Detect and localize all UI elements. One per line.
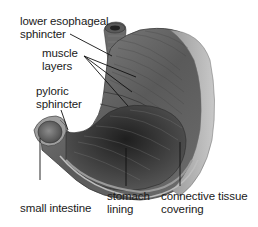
label-stomach-lining: stomach lining	[107, 190, 150, 215]
label-small-intestine: small intestine	[20, 202, 91, 215]
label-muscle-layers: muscle layers	[42, 47, 78, 72]
label-connective-tissue-covering: connective tissue covering	[161, 190, 248, 215]
label-pyloric-sphincter: pyloric sphincter	[36, 85, 82, 110]
label-lower-esophageal-sphincter: lower esophageal sphincter	[20, 15, 109, 40]
